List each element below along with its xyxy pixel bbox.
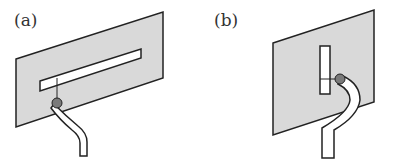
diagram-canvas [0, 0, 396, 165]
slot-b [320, 46, 330, 94]
coax-cable-a [51, 104, 87, 156]
feed-point-a [52, 98, 62, 108]
panel-b [273, 10, 374, 158]
feed-point-b [335, 74, 345, 84]
panel-a [16, 12, 163, 156]
